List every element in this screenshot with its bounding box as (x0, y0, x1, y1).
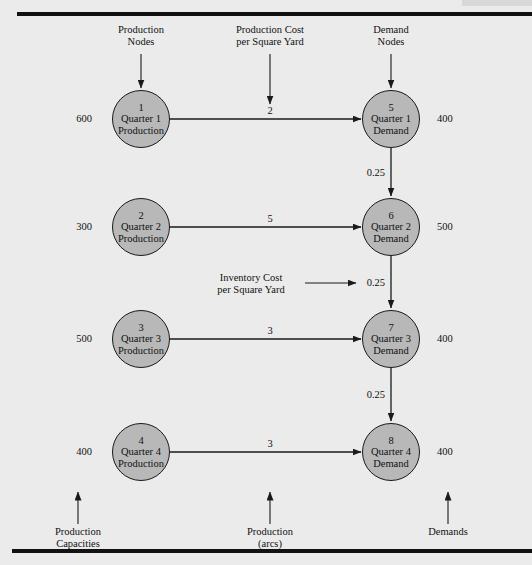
top-rule (17, 12, 532, 16)
node-5-line2: Demand (373, 125, 409, 136)
node-4-line2: Production (118, 458, 164, 469)
label-production-nodes-line1: Production (118, 24, 164, 36)
node-6-line2: Demand (373, 233, 409, 244)
label-production-cost: Production Cost per Square Yard (236, 24, 304, 49)
node-1-id: 1 (138, 102, 143, 113)
node-3[interactable]: 3 Quarter 3 Production (112, 310, 170, 368)
arc-label-5-6: 0.25 (367, 167, 385, 179)
corner-mark (462, 0, 532, 6)
node-8-line1: Quarter 4 (371, 446, 411, 457)
label-demands: Demands (428, 526, 468, 538)
node-4-line1: Quarter 4 (121, 446, 161, 457)
label-demands-line1: Demands (428, 526, 468, 538)
node-7[interactable]: 7 Quarter 3 Demand (362, 310, 420, 368)
label-production-capacities-line2: Capacities (55, 538, 101, 550)
node-6-line1: Quarter 2 (371, 221, 411, 232)
node-5-line1: Quarter 1 (371, 113, 411, 124)
node-4-id: 4 (138, 435, 143, 446)
label-production-cost-line1: Production Cost (236, 24, 304, 36)
node-8-line2: Demand (373, 458, 409, 469)
node-8-id: 8 (388, 435, 393, 446)
node-7-id: 7 (388, 322, 393, 333)
label-demand-nodes: Demand Nodes (373, 24, 409, 49)
arc-label-3-7: 3 (267, 325, 272, 336)
node-8[interactable]: 8 Quarter 4 Demand (362, 423, 420, 481)
capacity-node-4: 400 (76, 446, 92, 458)
label-inventory-cost-line1: Inventory Cost (217, 272, 284, 284)
node-6[interactable]: 6 Quarter 2 Demand (362, 198, 420, 256)
node-1-line2: Production (118, 125, 164, 136)
arc-label-6-7: 0.25 (367, 277, 385, 289)
node-5-id: 5 (388, 102, 393, 113)
node-2-line1: Quarter 2 (121, 221, 161, 232)
node-3-line2: Production (118, 345, 164, 356)
network-flow-figure: Production Nodes Production Cost per Squ… (0, 0, 532, 565)
capacity-node-2: 300 (76, 221, 92, 233)
capacity-node-3: 500 (76, 333, 92, 345)
arc-label-4-8: 3 (267, 438, 272, 449)
label-production-arcs-line1: Production (247, 526, 293, 538)
demand-node-8: 400 (437, 446, 453, 458)
node-5[interactable]: 5 Quarter 1 Demand (362, 90, 420, 148)
label-production-capacities-line1: Production (55, 526, 101, 538)
label-production-nodes-line2: Nodes (118, 36, 164, 48)
node-4[interactable]: 4 Quarter 4 Production (112, 423, 170, 481)
node-7-line2: Demand (373, 345, 409, 356)
demand-node-6: 500 (437, 221, 453, 233)
node-3-line1: Quarter 3 (121, 333, 161, 344)
node-1[interactable]: 1 Quarter 1 Production (112, 90, 170, 148)
capacity-node-1: 600 (76, 113, 92, 125)
label-inventory-cost: Inventory Cost per Square Yard (217, 272, 284, 297)
node-6-id: 6 (388, 210, 393, 221)
arc-label-1-5: 2 (267, 105, 272, 116)
node-2-id: 2 (138, 210, 143, 221)
label-inventory-cost-line2: per Square Yard (217, 284, 284, 296)
label-production-arcs: Production (arcs) (247, 526, 293, 551)
label-production-arcs-line2: (arcs) (247, 538, 293, 550)
label-production-capacities: Production Capacities (55, 526, 101, 551)
arc-label-7-8: 0.25 (367, 389, 385, 401)
demand-node-5: 400 (437, 113, 453, 125)
demand-node-7: 400 (437, 333, 453, 345)
label-demand-nodes-line1: Demand (373, 24, 409, 36)
node-2[interactable]: 2 Quarter 2 Production (112, 198, 170, 256)
node-7-line1: Quarter 3 (371, 333, 411, 344)
node-2-line2: Production (118, 233, 164, 244)
label-production-nodes: Production Nodes (118, 24, 164, 49)
node-1-line1: Quarter 1 (121, 113, 161, 124)
arc-label-2-6: 5 (267, 213, 272, 224)
label-demand-nodes-line2: Nodes (373, 36, 409, 48)
label-production-cost-line2: per Square Yard (236, 36, 304, 48)
node-3-id: 3 (138, 322, 143, 333)
